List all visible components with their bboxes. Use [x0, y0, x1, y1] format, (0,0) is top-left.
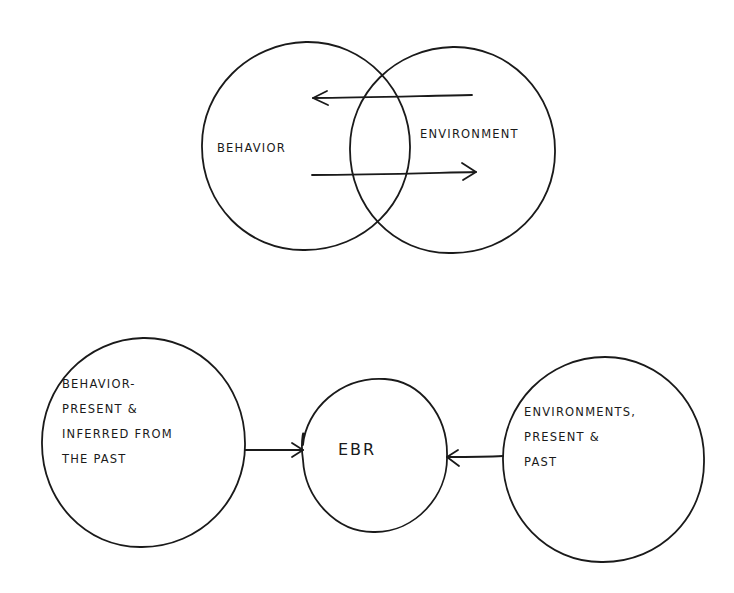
- arrow-environments-past-to-ebr: [447, 450, 503, 466]
- arrow-environment-to-behavior: [313, 91, 472, 105]
- environment-circle: [350, 47, 555, 253]
- arrow-behavior-to-environment: [312, 163, 476, 180]
- behavior-label: BEHAVIOR: [217, 142, 286, 154]
- environments-past-label: ENVIRONMENTS, PRESENT & PAST: [524, 400, 636, 475]
- environment-label: ENVIRONMENT: [420, 128, 519, 140]
- ebr-label: EBR: [338, 442, 376, 459]
- diagram-canvas: [0, 0, 734, 593]
- arrow-behavior-past-to-ebr: [245, 443, 303, 457]
- behavior-past-label: BEHAVIOR- PRESENT & INFERRED FROM THE PA…: [62, 372, 173, 472]
